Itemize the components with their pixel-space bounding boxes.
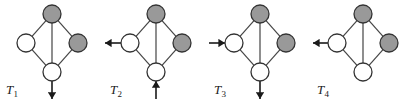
top-node: [43, 5, 61, 23]
graph-edges: [136, 21, 176, 66]
four-graph-diagrams-figure: T1T2T3T4: [0, 0, 415, 104]
right-node: [173, 34, 191, 52]
top-node: [354, 5, 372, 23]
bottom-node: [147, 63, 165, 81]
graph-edge-right-bottom: [266, 50, 280, 66]
graph-edge-right-bottom: [58, 50, 72, 66]
graph-edge-top-left: [343, 21, 357, 37]
graph-edge-top-left: [32, 21, 46, 37]
panel-label-t1: T1: [6, 82, 18, 99]
diagram-t3: T3: [208, 0, 312, 104]
graph-edge-left-bottom: [240, 50, 254, 66]
panel-label-subscript: 1: [13, 89, 18, 99]
panel-label-subscript: 4: [324, 89, 329, 99]
left-node: [225, 34, 243, 52]
graph-edge-top-right: [266, 21, 280, 37]
left-node: [328, 34, 346, 52]
graph-edge-right-bottom: [162, 50, 176, 66]
bottom-node: [43, 63, 61, 81]
graph-edge-left-bottom: [32, 50, 46, 66]
graph-edge-top-left: [240, 21, 254, 37]
right-node: [69, 34, 87, 52]
graph-edges: [32, 21, 72, 66]
top-node: [251, 5, 269, 23]
graph-edge-left-bottom: [136, 50, 150, 66]
panel-label-subscript: 2: [117, 89, 122, 99]
panel-label-t2: T2: [110, 82, 122, 99]
bottom-node: [354, 63, 372, 81]
panel-label-t3: T3: [214, 82, 226, 99]
graph-edges: [343, 21, 383, 66]
panel-label-t4: T4: [317, 82, 329, 99]
graph-edge-top-right: [162, 21, 176, 37]
graph-edge-top-left: [136, 21, 150, 37]
right-node: [380, 34, 398, 52]
left-node: [121, 34, 139, 52]
graph-edge-right-bottom: [369, 50, 383, 66]
left-node: [17, 34, 35, 52]
graph-edge-top-right: [58, 21, 72, 37]
top-node: [147, 5, 165, 23]
diagram-t2: T2: [104, 0, 208, 104]
bottom-node: [251, 63, 269, 81]
graph-edge-top-right: [369, 21, 383, 37]
graph-edges: [240, 21, 280, 66]
right-node: [277, 34, 295, 52]
panel-label-subscript: 3: [221, 89, 226, 99]
diagram-t4: T4: [311, 0, 415, 104]
diagram-t1: T1: [0, 0, 104, 104]
graph-edge-left-bottom: [343, 50, 357, 66]
